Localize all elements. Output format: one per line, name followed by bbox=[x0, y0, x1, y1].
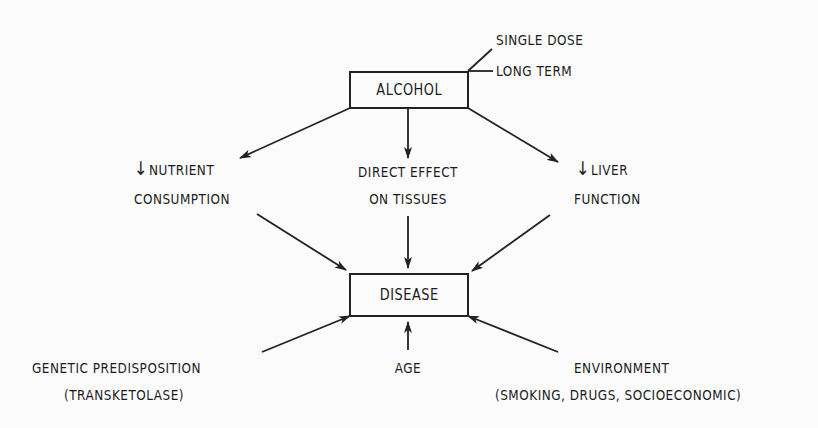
modifier-connector-single-dose bbox=[468, 49, 492, 71]
alcohol-label: ALCOHOL bbox=[376, 81, 442, 99]
modifier-long-term: LONG TERM bbox=[496, 63, 572, 79]
effect-liver-line1: LIVER bbox=[591, 162, 628, 178]
down-arrow-icon: ↓ bbox=[576, 160, 590, 176]
alcohol-node: ALCOHOL bbox=[349, 71, 469, 109]
arrow-environment-to-disease bbox=[468, 316, 558, 352]
disease-node: DISEASE bbox=[349, 273, 469, 317]
down-arrow-icon: ↓ bbox=[134, 160, 148, 176]
effect-direct-line2: ON TISSUES bbox=[322, 191, 494, 207]
factor-genetic-line1: GENETIC PREDISPOSITION bbox=[32, 360, 201, 376]
effect-nutrient-line1: NUTRIENT bbox=[149, 162, 214, 178]
arrow-liver-to-disease bbox=[472, 215, 550, 271]
arrow-genetic-to-disease bbox=[262, 316, 350, 352]
modifier-single-dose: SINGLE DOSE bbox=[496, 32, 583, 48]
disease-label: DISEASE bbox=[380, 286, 439, 304]
factor-environment-line1: ENVIRONMENT bbox=[574, 360, 669, 376]
effect-nutrient-line2: CONSUMPTION bbox=[134, 191, 230, 207]
factor-genetic-line2: (TRANSKETOLASE) bbox=[64, 387, 184, 403]
factor-environment-line2: (SMOKING, DRUGS, SOCIOECONOMIC) bbox=[495, 387, 741, 403]
effect-direct-line1: DIRECT EFFECT bbox=[322, 164, 494, 180]
factor-age: AGE bbox=[374, 360, 443, 376]
effect-nutrient: ↓NUTRIENT bbox=[134, 160, 214, 178]
arrow-nutrient-to-disease bbox=[257, 214, 346, 270]
arrow-alcohol-to-liver bbox=[468, 108, 558, 162]
effect-liver: ↓LIVER bbox=[576, 160, 628, 178]
arrow-alcohol-to-nutrient bbox=[240, 108, 350, 158]
effect-liver-line2: FUNCTION bbox=[574, 191, 641, 207]
